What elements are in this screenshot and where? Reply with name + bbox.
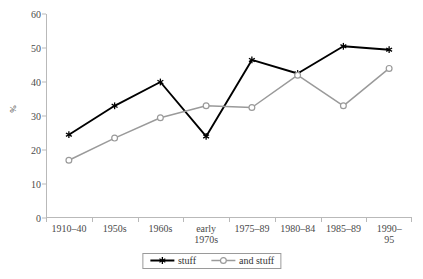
series-line <box>69 68 389 160</box>
x-tick-mark <box>321 218 322 222</box>
x-tick-mark <box>229 218 230 222</box>
x-tick-label: 1910–40 <box>51 223 86 234</box>
x-tick-label: 1975–89 <box>234 223 269 234</box>
data-point-marker <box>340 103 346 109</box>
data-point-marker <box>112 135 118 141</box>
legend-entry: stuff <box>149 255 196 266</box>
y-tick-label: 20 <box>31 145 41 156</box>
y-tick-label: 30 <box>31 111 41 122</box>
x-tick-label: 1990–95 <box>377 223 402 245</box>
legend-entry: and stuff <box>210 255 274 266</box>
x-tick-mark <box>46 218 47 222</box>
y-tick-label: 60 <box>31 9 41 20</box>
chart-figure: % 0102030405060 1910–401950s1960searly 1… <box>0 0 423 279</box>
y-tick-label: 0 <box>36 213 41 224</box>
data-point-marker <box>249 105 255 111</box>
data-point-marker <box>386 66 392 72</box>
x-tick-label: 1960s <box>148 223 172 234</box>
data-point-marker <box>157 115 163 121</box>
data-point-marker <box>203 103 209 109</box>
series-line <box>69 46 389 136</box>
y-tick-label: 40 <box>31 77 41 88</box>
series-lines <box>46 14 412 218</box>
x-tick-mark <box>92 218 93 222</box>
x-tick-label: 1985–89 <box>326 223 361 234</box>
y-tick-label: 10 <box>31 179 41 190</box>
data-point-marker <box>295 72 301 78</box>
data-point-marker <box>66 157 72 163</box>
data-point-marker <box>220 258 226 264</box>
legend-asterisk-icon <box>149 255 175 266</box>
legend-label: stuff <box>178 255 196 266</box>
x-tick-label: 1950s <box>103 223 127 234</box>
legend-circle-icon <box>210 255 236 266</box>
y-axis-title: % <box>8 98 18 120</box>
x-tick-mark <box>275 218 276 222</box>
x-tick-mark <box>411 218 412 222</box>
x-tick-label: early 1970s <box>194 223 218 245</box>
x-tick-label: 1980–84 <box>280 223 315 234</box>
chart-legend: stuffand stuff <box>142 253 281 269</box>
plot-area: 0102030405060 1910–401950s1960searly 197… <box>46 14 412 218</box>
x-tick-mark <box>366 218 367 222</box>
y-tick-label: 50 <box>31 43 41 54</box>
x-tick-mark <box>138 218 139 222</box>
legend-label: and stuff <box>239 255 274 266</box>
x-tick-mark <box>183 218 184 222</box>
